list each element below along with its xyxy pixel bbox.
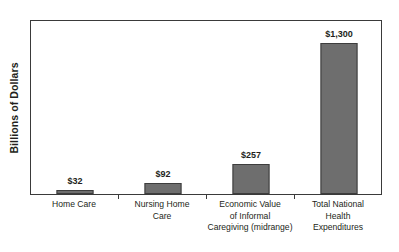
x-axis-label-line: Total National <box>286 199 390 211</box>
bar[interactable] <box>233 164 270 194</box>
bar-value-label: $32 <box>67 177 82 186</box>
bar-slot: $32 <box>31 21 119 194</box>
x-axis-label-line: Expenditures <box>286 222 390 234</box>
chart-figure: Billions of Dollars $32 $92 $257 $1,300 <box>0 0 399 252</box>
bar[interactable] <box>57 190 94 194</box>
bar-value-label: $257 <box>241 151 261 160</box>
x-axis-label: Total National Health Expenditures <box>286 199 390 234</box>
bars-layer: $32 $92 $257 $1,300 <box>31 21 381 194</box>
y-axis-title: Billions of Dollars <box>0 20 28 195</box>
x-axis-label-line: Health <box>286 211 390 223</box>
plot-area: $32 $92 $257 $1,300 <box>30 20 382 195</box>
bar-slot: $92 <box>119 21 207 194</box>
bar-value-label: $92 <box>155 170 170 179</box>
bar[interactable] <box>145 183 182 194</box>
y-axis-title-text: Billions of Dollars <box>8 62 20 153</box>
bar-slot: $257 <box>207 21 295 194</box>
bar-slot: $1,300 <box>295 21 383 194</box>
bar[interactable] <box>321 43 358 194</box>
bar-value-label: $1,300 <box>325 30 353 39</box>
x-axis-labels: Home Care Nursing Home Care Economic Val… <box>30 199 382 249</box>
